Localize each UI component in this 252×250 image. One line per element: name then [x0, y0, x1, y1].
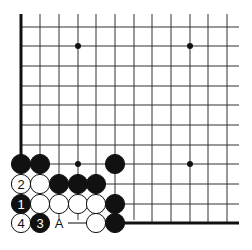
black-stone — [105, 194, 124, 213]
white-stone-icon — [86, 213, 105, 232]
white-stone — [86, 213, 105, 232]
black-stone-icon — [105, 194, 124, 213]
black-stone — [86, 174, 105, 193]
white-stone — [68, 194, 87, 213]
black-stone — [105, 213, 124, 232]
star-point-icon — [187, 43, 193, 49]
white-stone-icon — [86, 194, 105, 213]
move-number-label: 2 — [17, 177, 24, 192]
star-point-icon — [75, 161, 81, 167]
star-point-icon — [75, 43, 81, 49]
white-stone-icon — [68, 194, 87, 213]
star-point-icon — [187, 161, 193, 167]
white-stone-2: 2 — [11, 174, 30, 193]
white-stone — [49, 194, 68, 213]
black-stone-1: 1 — [11, 194, 30, 213]
black-stone-icon — [30, 154, 49, 173]
black-stone-icon — [49, 174, 68, 193]
board-grid — [0, 14, 239, 226]
move-number-label: 1 — [17, 197, 24, 212]
move-number-label: 3 — [36, 216, 43, 231]
black-stone-3: 3 — [30, 213, 49, 232]
black-stone — [68, 174, 87, 193]
move-number-label: 4 — [17, 216, 24, 231]
black-stone-icon — [68, 174, 87, 193]
white-stone-icon — [49, 194, 68, 213]
black-stone — [11, 154, 30, 173]
white-stone-icon — [30, 174, 49, 193]
white-stone — [30, 174, 49, 193]
white-stone-icon — [30, 194, 49, 213]
white-stone-4: 4 — [11, 213, 30, 232]
point-marker-label: A — [55, 216, 64, 231]
black-stone-icon — [11, 154, 30, 173]
black-stone — [49, 174, 68, 193]
go-board-diagram: 2143 A — [0, 0, 252, 250]
black-stone — [30, 154, 49, 173]
white-stone — [30, 194, 49, 213]
black-stone — [105, 154, 124, 173]
markers: A — [55, 216, 64, 231]
black-stone-icon — [86, 174, 105, 193]
black-stone-icon — [105, 213, 124, 232]
white-stone — [86, 194, 105, 213]
black-stone-icon — [105, 154, 124, 173]
